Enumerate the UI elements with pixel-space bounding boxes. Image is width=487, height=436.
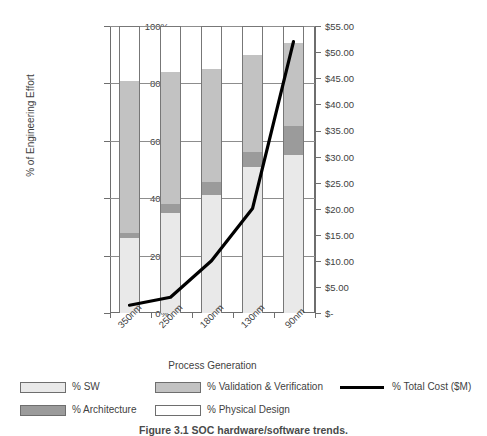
- x-axis-tick-mark: [315, 313, 316, 318]
- y-axis-right-tick-label: $-: [325, 309, 381, 319]
- y-axis-right-line: [315, 26, 316, 314]
- y-axis-right-tick-label: $30.00: [325, 153, 381, 163]
- y-axis-right-tick-mark: [315, 183, 321, 184]
- y-axis-left-title: % of Engineering Effort: [25, 56, 36, 196]
- y-axis-right-tick-label: $5.00: [325, 283, 381, 293]
- legend-swatch-sw-icon: [20, 382, 66, 393]
- y-axis-right-tick-label: $50.00: [325, 48, 381, 58]
- legend-label-physical-design: % Physical Design: [207, 404, 290, 415]
- legend-label-total-cost: % Total Cost ($M): [392, 381, 471, 392]
- x-axis-title: Process Generation: [110, 360, 315, 371]
- y-axis-right-tick-mark: [315, 235, 321, 236]
- legend-label-validation-verification: % Validation & Verification: [207, 381, 323, 392]
- y-axis-right-tick-mark: [315, 287, 321, 288]
- y-axis-right-tick-mark: [315, 26, 321, 27]
- total-cost-line: [110, 26, 315, 313]
- plot-area: [110, 26, 315, 313]
- y-axis-right-tick-mark: [315, 52, 321, 53]
- figure-caption: Figure 3.1 SOC hardware/software trends.: [0, 424, 487, 436]
- y-axis-right-tick-label: $55.00: [325, 22, 381, 32]
- y-axis-right-tick-mark: [315, 104, 321, 105]
- y-axis-right-tick-label: $25.00: [325, 179, 381, 189]
- legend-swatch-validation-verification-icon: [155, 382, 201, 393]
- chart-legend: % SW % Architecture % Validation & Verif…: [0, 381, 487, 425]
- x-axis-tick-mark: [274, 313, 275, 318]
- y-axis-right-tick-label: $10.00: [325, 257, 381, 267]
- y-axis-right-tick-label: $35.00: [325, 126, 381, 136]
- y-axis-right-tick-label: $15.00: [325, 231, 381, 241]
- y-axis-right-tick-label: $20.00: [325, 205, 381, 215]
- x-axis-tick-mark: [233, 313, 234, 318]
- y-axis-right-tick-mark: [315, 261, 321, 262]
- legend-swatch-architecture-icon: [20, 405, 66, 416]
- legend-label-architecture: % Architecture: [72, 404, 136, 415]
- y-axis-right-tick-mark: [315, 78, 321, 79]
- y-axis-right-tick-mark: [315, 209, 321, 210]
- total-cost-polyline: [130, 42, 294, 306]
- y-axis-right-tick-mark: [315, 157, 321, 158]
- y-axis-right-tick-mark: [315, 131, 321, 132]
- x-axis-tick-mark: [151, 313, 152, 318]
- y-axis-right-tick-label: $45.00: [325, 74, 381, 84]
- legend-swatch-physical-design-icon: [155, 405, 201, 416]
- x-axis-tick-mark: [110, 313, 111, 318]
- x-axis-tick-mark: [192, 313, 193, 318]
- legend-swatch-total-cost-line-icon: [340, 386, 384, 389]
- legend-label-sw: % SW: [72, 381, 100, 392]
- y-axis-right-tick-label: $40.00: [325, 100, 381, 110]
